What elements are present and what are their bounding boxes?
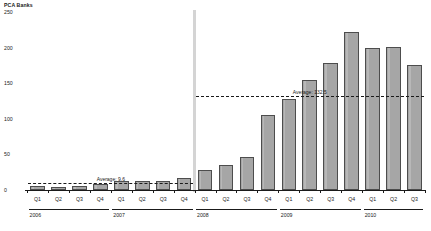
- bar-highlight: [263, 116, 265, 189]
- x-axis-quarter-label: Q1: [195, 196, 216, 202]
- average-late-line: [196, 96, 424, 97]
- y-axis-tick-150: 150: [4, 80, 26, 86]
- bar: [219, 165, 234, 190]
- bar: [407, 65, 422, 190]
- bar: [282, 99, 297, 190]
- x-axis-quarter-label: Q2: [216, 196, 237, 202]
- x-axis-quarter-label: Q1: [27, 196, 48, 202]
- x-axis-quarter-label: Q4: [257, 196, 278, 202]
- x-axis-tick: [257, 190, 258, 193]
- x-axis-tick: [216, 190, 217, 193]
- x-axis-tick: [236, 190, 237, 193]
- year-bracket: [196, 209, 277, 210]
- x-axis-quarter-label: Q3: [404, 196, 425, 202]
- x-axis-tick: [404, 190, 405, 193]
- bar-highlight: [346, 33, 348, 189]
- bar: [240, 157, 255, 190]
- x-axis-tick: [27, 190, 28, 193]
- y-axis-tick-200: 200: [4, 45, 26, 51]
- y-axis-tick-50: 50: [4, 151, 26, 157]
- x-axis-year-label: 2010: [365, 212, 377, 218]
- bar-highlight: [367, 49, 369, 189]
- bar-highlight: [304, 81, 306, 189]
- x-axis-quarter-label: Q1: [278, 196, 299, 202]
- bar-highlight: [200, 171, 202, 189]
- x-axis-quarter-label: Q3: [236, 196, 257, 202]
- y-axis-tick-0: 0: [4, 187, 26, 193]
- x-axis-year-label: 2009: [281, 212, 293, 218]
- bar-highlight: [388, 48, 390, 189]
- bar-highlight: [74, 187, 76, 189]
- y-axis-tick-250: 250: [4, 9, 26, 15]
- bar: [344, 32, 359, 190]
- x-axis-quarter-label: Q3: [69, 196, 90, 202]
- x-axis-tick: [132, 190, 133, 193]
- y-axis-title: PCA Banks: [4, 2, 33, 8]
- y-axis-tick-100: 100: [4, 116, 26, 122]
- bar: [365, 48, 380, 190]
- bar-highlight: [409, 66, 411, 189]
- x-axis-tick: [195, 190, 196, 193]
- x-axis-quarter-label: Q4: [90, 196, 111, 202]
- x-axis-quarter-label: Q2: [132, 196, 153, 202]
- x-axis-tick: [174, 190, 175, 193]
- x-axis-tick: [425, 190, 426, 193]
- x-axis-quarter-label: Q2: [383, 196, 404, 202]
- year-bracket: [364, 209, 424, 210]
- average-late-label: Average: 132.5: [293, 89, 327, 95]
- bar: [198, 170, 213, 190]
- bar: [261, 115, 276, 190]
- x-axis-quarter-label: Q2: [48, 196, 69, 202]
- x-axis-year-label: 2006: [30, 212, 42, 218]
- x-axis-tick: [69, 190, 70, 193]
- x-axis-quarter-label: Q4: [174, 196, 195, 202]
- x-axis-tick: [362, 190, 363, 193]
- bar-highlight: [242, 158, 244, 189]
- bar-highlight: [32, 187, 34, 189]
- bar-highlight: [325, 64, 327, 189]
- x-axis-line: [25, 190, 426, 191]
- x-axis-quarter-label: Q3: [320, 196, 341, 202]
- bar: [135, 181, 150, 190]
- bar: [386, 47, 401, 190]
- bar: [323, 63, 338, 190]
- x-axis-tick: [48, 190, 49, 193]
- bar-highlight: [53, 188, 55, 189]
- x-axis-quarter-label: Q1: [111, 196, 132, 202]
- x-axis-quarter-label: Q3: [153, 196, 174, 202]
- average-early-label: Average: 9.6: [97, 176, 125, 182]
- x-axis-year-label: 2008: [197, 212, 209, 218]
- x-axis-tick: [278, 190, 279, 193]
- bar-highlight: [95, 185, 97, 189]
- x-axis-tick: [299, 190, 300, 193]
- plot-area: Average: 9.6Average: 132.5: [27, 12, 425, 190]
- average-early-line: [28, 183, 193, 184]
- x-axis-tick: [90, 190, 91, 193]
- x-axis-year-label: 2007: [113, 212, 125, 218]
- bar: [156, 181, 171, 190]
- chart-container: PCA Banks 050100150200250 Average: 9.6Av…: [0, 0, 431, 231]
- x-axis-quarter-label: Q4: [341, 196, 362, 202]
- period-divider: [193, 10, 195, 192]
- x-axis-tick: [341, 190, 342, 193]
- x-axis-tick: [153, 190, 154, 193]
- x-axis-quarter-label: Q1: [362, 196, 383, 202]
- x-axis-tick: [320, 190, 321, 193]
- year-bracket: [112, 209, 193, 210]
- bar-highlight: [221, 166, 223, 189]
- year-bracket: [29, 209, 110, 210]
- x-axis-tick: [111, 190, 112, 193]
- x-axis-quarter-label: Q2: [299, 196, 320, 202]
- year-bracket: [280, 209, 361, 210]
- bar-highlight: [284, 100, 286, 189]
- x-axis-tick: [383, 190, 384, 193]
